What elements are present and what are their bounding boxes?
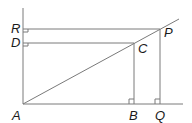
label-C: C <box>138 41 148 56</box>
label-D: D <box>11 35 20 50</box>
geometry-diagram: R D P C A B Q <box>0 0 192 123</box>
right-angle-mark-B <box>129 99 134 104</box>
label-P: P <box>164 25 173 40</box>
right-angle-mark-Q <box>155 99 160 104</box>
label-B: B <box>129 108 138 123</box>
label-R: R <box>11 21 20 36</box>
label-Q: Q <box>155 108 165 123</box>
diagonal-line-AP <box>23 19 179 104</box>
label-A: A <box>11 108 21 123</box>
